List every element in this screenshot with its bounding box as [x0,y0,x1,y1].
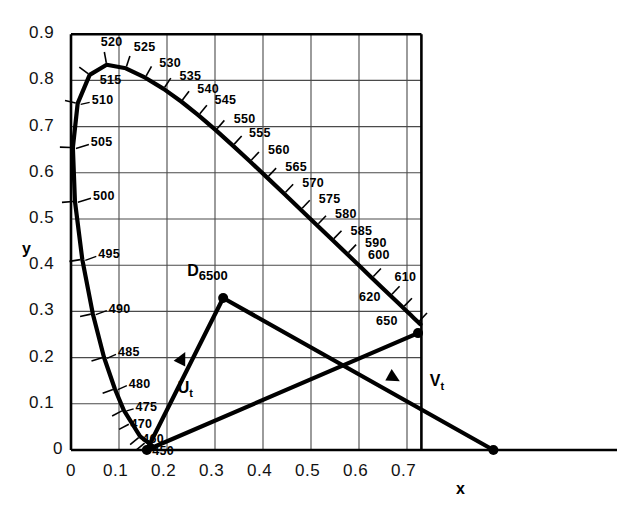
x-tick-label-0.4: 0.4 [247,461,272,481]
wavelength-label-490: 490 [109,302,131,316]
illuminant-d6500-label-main: D [187,262,199,279]
y-tick-label-0.7: 0.7 [29,116,54,136]
y-tick-label-0.3: 0.3 [29,300,54,320]
wavelength-label-575: 575 [319,192,341,206]
vector-vt-label-main: V [430,372,441,389]
wavelength-label-650: 650 [376,314,398,328]
wavelength-label-475: 475 [136,400,158,414]
wavelength-label-485: 485 [118,345,140,359]
wavelength-label-620: 620 [359,290,381,304]
illuminant-d6500-label: D6500 [187,262,227,283]
wavelength-label-550: 550 [234,112,256,126]
vector-ut-label: Ut [178,379,193,399]
wavelength-label-505: 505 [91,135,113,149]
y-tick-label-0.8: 0.8 [29,69,54,89]
vector-ut-label-main: U [178,379,190,396]
x-tick-label-0.5: 0.5 [295,461,320,481]
wavelength-label-565: 565 [285,160,307,174]
wavelength-label-545: 545 [215,93,237,107]
x-tick-label-0.7: 0.7 [391,461,416,481]
cie-chromaticity-diagram: 00.10.20.30.40.50.60.7 00.10.20.30.40.50… [0,0,630,525]
wavelength-label-515: 515 [100,73,122,87]
wavelength-label-525: 525 [134,40,156,54]
chart-canvas [0,0,630,525]
wavelength-label-500: 500 [93,189,115,203]
y-tick-label-0.1: 0.1 [29,393,54,413]
x-tick-label-0.2: 0.2 [151,461,176,481]
wavelength-label-555: 555 [249,126,271,140]
wavelength-label-460: 460 [142,432,164,446]
wavelength-label-560: 560 [268,143,290,157]
vector-vt-label-subscript: t [440,381,444,393]
vector-vt-label: Vt [430,372,444,392]
y-tick-label-0.6: 0.6 [29,162,54,182]
y-tick-label-0.5: 0.5 [29,208,54,228]
wavelength-label-530: 530 [159,56,181,70]
wavelength-label-470: 470 [131,417,153,431]
x-axis-title: x [456,480,465,498]
wavelength-label-600: 600 [368,248,390,262]
wavelength-label-495: 495 [98,247,120,261]
wavelength-label-480: 480 [129,377,151,391]
illuminant-d6500-label-subscript: 6500 [199,268,228,283]
wavelength-label-580: 580 [335,207,357,221]
y-tick-label-0: 0 [53,439,63,459]
wavelength-label-510: 510 [92,93,114,107]
x-tick-label-0: 0 [66,461,76,481]
y-tick-label-0.9: 0.9 [29,23,54,43]
wavelength-label-520: 520 [101,35,123,49]
y-tick-label-0.2: 0.2 [29,347,54,367]
x-tick-label-0.6: 0.6 [343,461,368,481]
wavelength-label-610: 610 [395,270,417,284]
y-axis-title: y [22,240,31,258]
x-tick-label-0.1: 0.1 [103,461,128,481]
wavelength-label-570: 570 [302,176,324,190]
x-tick-label-0.3: 0.3 [199,461,224,481]
vector-ut-label-subscript: t [189,388,193,400]
y-tick-label-0.4: 0.4 [29,254,54,274]
